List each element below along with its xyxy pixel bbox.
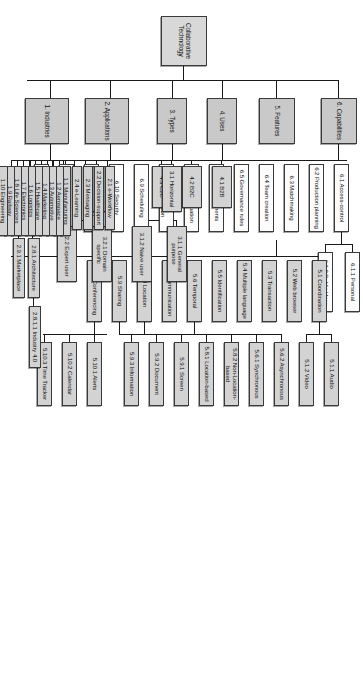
connector-5-1-2 bbox=[306, 334, 307, 342]
connector-5-9-3 bbox=[131, 334, 132, 342]
node-label: 2.3 Messaging bbox=[85, 168, 91, 228]
node-5-9-2[interactable]: 5.9.2 Document bbox=[149, 342, 164, 406]
node-label: 5.8.1 Location-based bbox=[203, 344, 209, 404]
node-5-10-2[interactable]: 5.10.2 Calendar bbox=[62, 342, 77, 406]
node-6-5[interactable]: 6.5 Governance rules bbox=[234, 164, 249, 232]
node-label: 5.6 Temporal bbox=[191, 262, 197, 320]
connector-5-10-3 bbox=[44, 334, 45, 342]
node-label: 5.4 Multiple language bbox=[241, 262, 247, 320]
node-label: 3.1.1 General purpose bbox=[171, 228, 184, 280]
node-5-1-2[interactable]: 5.1.2 Video bbox=[299, 342, 314, 406]
connector-5-9-1 bbox=[181, 334, 182, 342]
node-label: 6.2 Production planning bbox=[313, 166, 319, 230]
node-label: 5.9.3 Information bbox=[128, 344, 134, 404]
node-5-2[interactable]: 5.2 Web browser bbox=[287, 260, 302, 322]
node-6-3[interactable]: 6.3 Matchmaking bbox=[284, 164, 299, 232]
node-5-3[interactable]: 5.3 Transaction bbox=[262, 260, 277, 322]
connector-5-1-bus bbox=[306, 334, 332, 335]
node-5-features[interactable]: 5. Features bbox=[259, 98, 295, 144]
node-5-6[interactable]: 5.6 Temporal bbox=[187, 260, 202, 322]
node-label: 6. Capabilities bbox=[336, 100, 343, 142]
node-3-types[interactable]: 3. Types bbox=[157, 98, 187, 144]
node-5-5[interactable]: 5.5 Identification bbox=[212, 260, 227, 322]
node-5-9-1[interactable]: 5.9.1 Screen bbox=[174, 342, 189, 406]
node-label: 5.2 Web browser bbox=[291, 262, 297, 320]
node-2-4[interactable]: 2.4 e-Learning bbox=[72, 166, 82, 230]
node-5-6-1[interactable]: 5.6.1 Synchronous bbox=[249, 342, 264, 406]
connector-root-b1 bbox=[50, 80, 51, 98]
node-3-1-1[interactable]: 3.1.1 General purpose bbox=[167, 226, 187, 282]
node-5-6-2[interactable]: 5.6.2 Asynchronous bbox=[274, 342, 289, 406]
node-6-4[interactable]: 6.4 Team creation bbox=[259, 164, 274, 232]
node-label: 3.1.2 Naive user bbox=[139, 228, 145, 280]
node-5-8-2[interactable]: 5.8.2 Non-Location-based bbox=[224, 342, 239, 406]
node-6-capabilities[interactable]: 6. Capabilities bbox=[321, 98, 357, 144]
node-6-1[interactable]: 6.1 Access-control bbox=[334, 164, 349, 232]
node-4-1[interactable]: 4.1 B2B bbox=[212, 166, 232, 208]
node-5-9-3[interactable]: 5.9.3 Information bbox=[124, 342, 139, 406]
node-3-2-1[interactable]: 3.2.1 Domain specific bbox=[92, 226, 112, 282]
node-3-1[interactable]: 3.1 Horizontal bbox=[162, 166, 182, 212]
node-6-1-1[interactable]: 6.1.1 Personal bbox=[345, 252, 360, 312]
node-5-1-1[interactable]: 5.1.1 Audio bbox=[324, 342, 339, 406]
node-label: 1.10 Engineering bbox=[0, 168, 6, 234]
node-5-4[interactable]: 5.4 Multiple language bbox=[237, 260, 252, 322]
connector-b4-stem bbox=[222, 144, 223, 160]
connector-root-b2 bbox=[110, 80, 111, 98]
connector-5-9-bus bbox=[119, 334, 182, 335]
node-4-2[interactable]: 4.2 B2C bbox=[182, 166, 202, 208]
node-root[interactable]: Collaborative Technology bbox=[161, 16, 207, 66]
node-5-1[interactable]: 5.1 Coordination bbox=[312, 260, 327, 322]
node-2-3[interactable]: 2.3 Messaging bbox=[83, 166, 93, 230]
node-label: 5.8.2 Non-Location-based bbox=[225, 344, 238, 404]
node-5-9[interactable]: 5.9 Sharing bbox=[112, 260, 127, 322]
connector-5-9-stem bbox=[119, 322, 120, 334]
diagram-canvas: Collaborative Technology 6. Capabilities… bbox=[0, 0, 363, 696]
node-label: 1. Industries bbox=[44, 100, 51, 142]
node-label: 6.3 Matchmaking bbox=[288, 166, 294, 230]
node-label: 6.5 Governance rules bbox=[238, 166, 244, 230]
node-label: 6.1.1 Personal bbox=[349, 254, 355, 310]
connector-5-1-1 bbox=[331, 334, 332, 342]
connector-5-10-2 bbox=[69, 334, 70, 342]
node-5-8-1[interactable]: 5.8.1 Location-based bbox=[199, 342, 214, 406]
node-2-1[interactable]: 2.1 e-Workflow bbox=[105, 166, 115, 230]
connector-5-6-stem bbox=[194, 322, 195, 334]
node-label: 4.2 B2C bbox=[189, 168, 195, 206]
node-2-applications[interactable]: 2. Applications bbox=[85, 98, 129, 144]
node-label: Collaborative Technology bbox=[177, 18, 190, 64]
connector-root-b4 bbox=[222, 80, 223, 98]
node-label: 4.1 B2B bbox=[219, 168, 225, 206]
connector-b3-stem bbox=[172, 144, 173, 160]
connector-6-1-1 bbox=[352, 244, 353, 252]
node-label: 6.4 Team creation bbox=[263, 166, 269, 230]
connector-6-1-2 bbox=[325, 244, 326, 252]
tree-layer: Collaborative Technology 6. Capabilities… bbox=[0, 0, 363, 696]
connector-6-1-stem bbox=[341, 232, 342, 244]
node-label: 3.2.1 Domain specific bbox=[96, 228, 109, 280]
node-3-1-2[interactable]: 3.1.2 Naive user bbox=[132, 226, 152, 282]
node-label: 4. Uses bbox=[219, 100, 226, 142]
node-label: 2. Applications bbox=[104, 100, 111, 142]
node-label: 5.10.3 Time Tracker bbox=[41, 344, 47, 404]
connector-b1-stem bbox=[50, 144, 51, 160]
node-label: 5.10.2 Calendar bbox=[66, 344, 72, 404]
node-2-9-1[interactable]: 2.9.1 Marketplace bbox=[13, 238, 25, 298]
node-label: 5.5 Identification bbox=[216, 262, 222, 320]
connector-5-6-1 bbox=[256, 334, 257, 342]
connector-b2-stem bbox=[110, 144, 111, 160]
node-label: 2.8.1.1 Industry 4.0 bbox=[32, 308, 38, 366]
node-1-industries[interactable]: 1. Industries bbox=[25, 98, 69, 144]
node-6-9[interactable]: 6.9 Scheduling bbox=[134, 164, 149, 232]
node-6-2[interactable]: 6.2 Production planning bbox=[309, 164, 324, 232]
node-2-8-1-1[interactable]: 2.8.1.1 Industry 4.0 bbox=[29, 306, 41, 368]
node-4-uses[interactable]: 4. Uses bbox=[207, 98, 237, 144]
node-5-10-1[interactable]: 5.10.1 Alerts bbox=[87, 342, 102, 406]
node-label: 3. Types bbox=[169, 100, 176, 142]
connector-2-8-1-1-stem bbox=[33, 298, 34, 306]
node-label: 5.9 Sharing bbox=[116, 262, 122, 320]
node-2-2[interactable]: 2.2 Decision-support bbox=[94, 166, 104, 230]
node-2-8-1[interactable]: 2.8.1 Architecture bbox=[28, 238, 40, 298]
connector-5-9-2 bbox=[156, 334, 157, 342]
node-1-10[interactable]: 1.10 Engineering bbox=[0, 166, 8, 236]
